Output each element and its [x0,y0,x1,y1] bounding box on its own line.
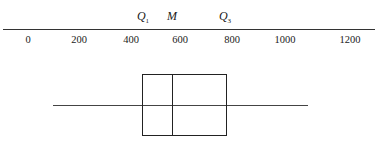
box-plot-chart: 020040060080010001200 Q1MQ3 [0,0,390,147]
tick-label: 1200 [340,34,361,45]
tick-label: 800 [224,34,240,45]
stat-label-q3: Q3 [219,9,231,25]
stat-label-q1: Q1 [137,9,149,25]
tick-label: 600 [172,34,188,45]
tick-label: 200 [71,34,87,45]
tick-label: 400 [123,34,139,45]
tick-label: 0 [25,34,30,45]
median-line [172,74,173,136]
iqr-box [142,74,227,136]
x-axis-line [3,29,375,30]
stat-label-m: M [167,9,177,24]
tick-label: 1000 [275,34,296,45]
